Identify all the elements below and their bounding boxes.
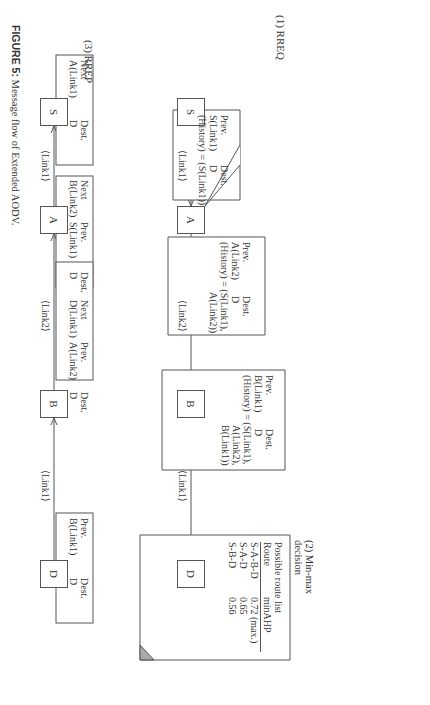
rrep-node-s: S: [40, 98, 68, 126]
rreq-link-label: ⟨Link1⟩: [177, 470, 188, 502]
rrep-table-a: NextPrev.Dest. B(Link2)S(Link1)D: [68, 180, 90, 293]
possible-route-list: Possible route list Route minAHP S-A-B-D…: [227, 542, 284, 652]
figure-5-rotated: (1) RREQ (3) RREP S A B D ⟨Link1⟩ ⟨Link2…: [0, 0, 430, 705]
route-row: S-B-D 0.56: [227, 542, 238, 652]
rrep-link-label: ⟨Link1⟩: [40, 150, 51, 182]
rrep-table-b: NextPrev.Dest. D(Link1)A(Link2)D: [68, 300, 90, 413]
rreq-table-a: Prev.Dest. S(Link1)D (History) = (S(Link…: [197, 115, 230, 197]
rrep-node-b: B: [40, 390, 68, 418]
route-list-title: Possible route list: [273, 542, 284, 652]
figure-caption: FIGURE 5: Message flow of Extended AODV.: [10, 25, 22, 225]
rrep-table-s: NextDest. A(Link1)D: [68, 60, 90, 141]
caption-label: FIGURE 5:: [10, 25, 22, 77]
rreq-node-d: D: [177, 560, 205, 588]
rrep-link-label: ⟨Link1⟩: [40, 470, 51, 502]
rrep-link-label: ⟨Link2⟩: [40, 300, 51, 332]
route-row: S-A-D 0.65: [238, 542, 249, 652]
rreq-table-b: Prev.Dest. A(Link2)D (History) = (S(Link…: [208, 242, 252, 334]
rreq-node-b: B: [177, 390, 205, 418]
rreq-title: (1) RREQ: [275, 15, 287, 60]
route-list-header: Route minAHP: [260, 542, 273, 652]
rreq-link-label: ⟨Link1⟩: [177, 150, 188, 182]
rrep-node-a: A: [40, 206, 68, 234]
minmax-title: (2) Min-max decision: [293, 540, 315, 594]
rreq-table-d: Prev.Dest. B(Link1)D (History) = (S(Link…: [220, 375, 275, 469]
rreq-node-a: A: [177, 206, 205, 234]
rreq-link-label: ⟨Link2⟩: [177, 300, 188, 332]
rrep-node-d: D: [40, 560, 68, 588]
route-row: S-A-B-D 0.72 (max.): [249, 542, 260, 652]
caption-text: Message flow of Extended AODV.: [10, 77, 21, 226]
rrep-table-d: Prev.Dest. B(Link1)D: [68, 518, 90, 599]
